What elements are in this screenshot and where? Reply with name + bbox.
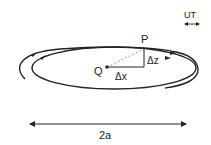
- label-delta-x: Δx: [115, 71, 127, 82]
- orbit-diagram: P Q Δx Δz UT 2a: [0, 0, 211, 145]
- arrow-left-inner-icon: [40, 55, 46, 60]
- label-point-q: Q: [94, 65, 103, 77]
- label-major-axis: 2a: [99, 129, 112, 141]
- label-point-p: P: [141, 33, 148, 45]
- label-time-unit: UT: [184, 10, 196, 20]
- label-delta-z: Δz: [147, 55, 159, 66]
- displacement-geometry: [105, 49, 144, 69]
- arrow-right-inner-icon: [165, 56, 171, 60]
- q-to-p-dashed-line: [107, 49, 144, 67]
